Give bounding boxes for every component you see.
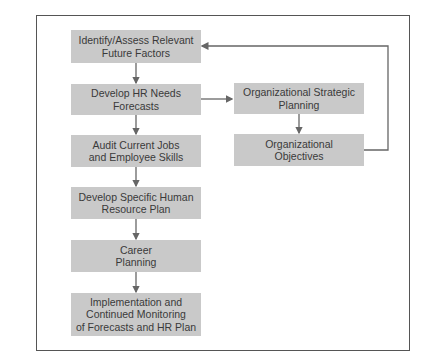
box-org-objectives: Organizational Objectives bbox=[234, 134, 364, 166]
box-hr-forecasts: Develop HR Needs Forecasts bbox=[71, 84, 201, 115]
box-label: Identify/Assess Relevant Future Factors bbox=[79, 34, 194, 59]
box-label: Implementation and Continued Monitoring … bbox=[76, 296, 196, 334]
box-hr-plan: Develop Specific Human Resource Plan bbox=[71, 187, 201, 219]
box-implementation: Implementation and Continued Monitoring … bbox=[71, 293, 201, 336]
box-label: Develop Specific Human Resource Plan bbox=[79, 191, 194, 216]
box-label: Organizational Strategic Planning bbox=[243, 86, 355, 111]
connectors bbox=[0, 0, 431, 364]
box-label: Develop HR Needs Forecasts bbox=[91, 87, 181, 112]
box-strategic-planning: Organizational Strategic Planning bbox=[234, 83, 364, 114]
box-label: Organizational Objectives bbox=[265, 138, 333, 163]
box-identify-factors: Identify/Assess Relevant Future Factors bbox=[71, 30, 201, 63]
box-label: Career Planning bbox=[116, 244, 157, 269]
box-label: Audit Current Jobs and Employee Skills bbox=[89, 139, 184, 164]
box-career-planning: Career Planning bbox=[71, 240, 201, 272]
box-audit-jobs: Audit Current Jobs and Employee Skills bbox=[71, 135, 201, 167]
